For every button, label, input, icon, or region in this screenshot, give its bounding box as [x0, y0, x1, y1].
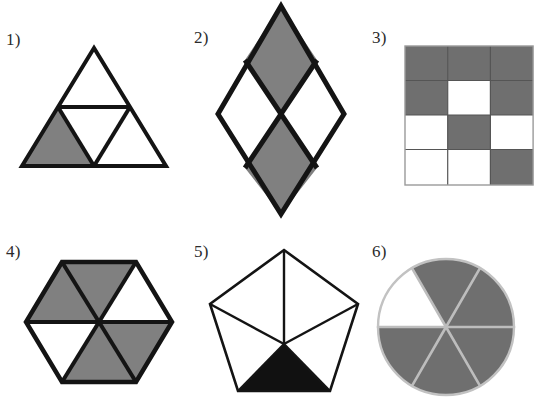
worksheet-page: 1) 2) [0, 0, 539, 403]
figure-3-cell-r2c3 [490, 81, 533, 116]
figure-3-cell-r1c2 [448, 46, 491, 81]
figure-3-cell-r4c2 [448, 150, 491, 186]
figure-3-cell-r3c1 [405, 115, 448, 150]
figure-2-label: 2) [194, 29, 209, 46]
figure-3-cell-r3c2 [448, 115, 491, 150]
figure-4-label: 4) [6, 243, 21, 260]
figure-3-cell-r1c1 [405, 46, 448, 81]
figure-2-rhombus-art [210, 2, 352, 218]
figure-5-pentagon-art [202, 244, 366, 402]
figure-3-cell-r4c3 [490, 150, 533, 186]
figure-6-circle-art [373, 254, 519, 400]
figure-3-cell-r3c3 [490, 115, 533, 150]
figure-3-cell-r2c2 [448, 81, 491, 116]
figure-1-part-top-white [58, 48, 130, 107]
figure-4-hexagon-art [20, 258, 178, 386]
figure-3-grid-art [404, 45, 534, 187]
figure-1-triangle-art [18, 44, 170, 170]
figure-3-cell-r1c3 [490, 46, 533, 81]
figure-3-cell-r4c1 [405, 150, 448, 186]
figure-3-cell-r2c1 [405, 81, 448, 116]
figure-3-label: 3) [372, 29, 387, 46]
